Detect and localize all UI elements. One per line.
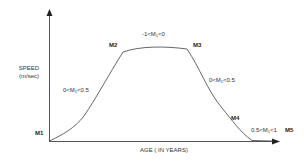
y-axis-label-line2: (m/sec) (13, 73, 45, 79)
point-label-m2: M2 (109, 42, 117, 48)
speed-curve (50, 47, 273, 141)
x-axis-label: AGE ( IN YEARS) (140, 147, 188, 153)
point-label-m5: M5 (285, 127, 293, 133)
point-label-m1: M1 (35, 130, 43, 136)
point-label-m4: M4 (231, 115, 239, 121)
y-axis-label-line1: SPEED (13, 65, 45, 71)
y-axis-arrow-icon (47, 9, 53, 16)
segment-label-m4-m5: 0.5<M1<1 (251, 127, 277, 134)
point-label-m3: M3 (193, 42, 201, 48)
segment-label-m2-m3: -1<M1<0 (142, 31, 165, 38)
y-axis-label: SPEED (m/sec) (13, 65, 45, 79)
speed-age-diagram (0, 0, 304, 162)
segment-label-m3-m4: 0<M1<0.5 (209, 77, 235, 84)
x-axis-arrow-icon (272, 139, 280, 145)
segment-label-m1-m2: 0<M1<0.5 (63, 87, 89, 94)
